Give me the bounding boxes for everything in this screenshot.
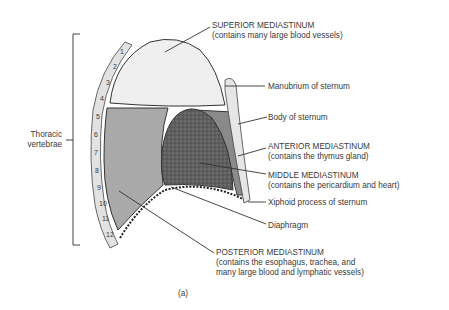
vertebra-6: 6 [94, 130, 98, 140]
vertebra-9: 9 [97, 183, 101, 193]
body-of-sternum-label: Body of sternum [268, 113, 328, 123]
posterior-mediastinum-label: POSTERIOR MEDIASTINUM (contains the esop… [216, 248, 364, 278]
anterior-title: ANTERIOR MEDIASTINUM [268, 142, 370, 152]
figure-caption: (a) [178, 289, 188, 299]
middle-title: MIDDLE MEDIASTINUM [268, 171, 400, 181]
xiphoid-label: Xiphoid process of sternum [268, 198, 367, 208]
vertebra-4: 4 [100, 94, 104, 104]
diaphragm-label: Diaphragm [268, 221, 308, 231]
vertebra-8: 8 [95, 166, 99, 176]
vertebra-3: 3 [106, 78, 110, 88]
superior-mediastinum-label: SUPERIOR MEDIASTINUM (contains many larg… [212, 21, 343, 41]
vertebra-1: 1 [120, 47, 124, 57]
thoracic-line2: vertebrae [18, 140, 62, 150]
posterior-note-2: many large blood and lymphatic vessels) [216, 268, 364, 278]
middle-mediastinum-label: MIDDLE MEDIASTINUM (contains the pericar… [268, 171, 400, 191]
manubrium-label: Manubrium of sternum [268, 82, 350, 92]
thoracic-line1: Thoracic [18, 130, 62, 140]
vertebra-11: 11 [102, 214, 109, 224]
vertebra-7: 7 [94, 148, 98, 158]
posterior-title: POSTERIOR MEDIASTINUM [216, 248, 364, 258]
posterior-mediastinum [104, 108, 168, 230]
vertebra-12: 12 [106, 230, 114, 240]
middle-note: (contains the pericardium and heart) [268, 181, 400, 191]
vertebra-2: 2 [113, 62, 117, 72]
vertebrae-bracket [73, 34, 80, 245]
vertebra-10: 10 [99, 199, 107, 209]
superior-title: SUPERIOR MEDIASTINUM [212, 21, 343, 31]
thoracic-vertebrae-label: Thoracic vertebrae [18, 130, 62, 150]
anterior-note: (contains the thymus gland) [268, 152, 370, 162]
anterior-mediastinum-label: ANTERIOR MEDIASTINUM (contains the thymu… [268, 142, 370, 162]
posterior-note-1: (contains the esophagus, trachea, and [216, 258, 364, 268]
superior-note: (contains many large blood vessels) [212, 31, 343, 41]
vertebra-5: 5 [96, 112, 100, 122]
